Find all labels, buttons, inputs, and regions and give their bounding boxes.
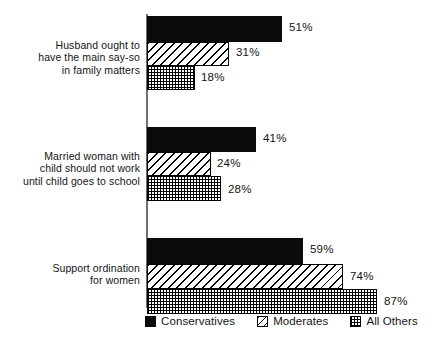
category-label-line: have the main say-so: [8, 51, 140, 63]
bar-others-group-1: [147, 66, 195, 90]
category-label-line: Married woman with: [8, 150, 140, 162]
value-label-others-group-1: 18%: [201, 71, 225, 83]
value-label-conservatives-group-2: 41%: [263, 132, 287, 144]
legend-swatch-dots-icon: [350, 316, 361, 327]
category-label-group-3: Support ordination for women: [8, 262, 140, 287]
value-label-conservatives-group-1: 51%: [289, 21, 313, 33]
legend-swatch-hatch-icon: [257, 316, 268, 327]
category-label-group-1: Husband ought to have the main say-so in…: [8, 39, 140, 76]
value-label-moderates-group-3: 74%: [350, 270, 374, 282]
bar-others-group-2: [147, 176, 221, 201]
bar-moderates-group-2: [147, 152, 211, 176]
bar-chart: Husband ought to have the main say-so in…: [0, 0, 434, 349]
bar-moderates-group-1: [147, 42, 229, 66]
legend-label-conservatives: Conservatives: [161, 315, 235, 327]
bar-conservatives-group-3: [147, 238, 303, 264]
category-label-line: until child goes to school: [8, 175, 140, 187]
legend-item-moderates: Moderates: [257, 315, 328, 327]
bar-moderates-group-3: [147, 264, 343, 289]
legend-label-all-others: All Others: [366, 315, 418, 327]
value-label-moderates-group-2: 24%: [217, 157, 241, 169]
category-label-line: child should not work: [8, 162, 140, 174]
legend-item-all-others: All Others: [350, 315, 418, 327]
category-label-line: for women: [8, 274, 140, 286]
legend-item-conservatives: Conservatives: [145, 315, 235, 327]
value-label-others-group-3: 87%: [384, 295, 408, 307]
category-label-group-2: Married woman with child should not work…: [8, 150, 140, 187]
legend: Conservatives Moderates All Others: [145, 315, 418, 327]
value-label-moderates-group-1: 31%: [236, 46, 260, 58]
category-label-line: Husband ought to: [8, 39, 140, 51]
bar-conservatives-group-2: [147, 127, 256, 152]
category-label-line: in family matters: [8, 64, 140, 76]
category-label-line: Support ordination: [8, 262, 140, 274]
bar-conservatives-group-1: [147, 16, 282, 42]
legend-label-moderates: Moderates: [273, 315, 328, 327]
value-label-conservatives-group-3: 59%: [310, 243, 334, 255]
value-label-others-group-2: 28%: [228, 183, 252, 195]
bar-others-group-3: [147, 289, 377, 314]
legend-swatch-solid-icon: [145, 316, 156, 327]
